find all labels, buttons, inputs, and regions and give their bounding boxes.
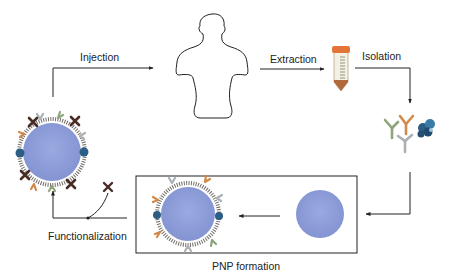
functionalized-nanoparticle-icon — [16, 112, 89, 191]
antibody-cluster-icon — [385, 116, 435, 152]
coated-nanoparticle-icon — [153, 176, 223, 251]
sample-tube-icon — [332, 46, 350, 91]
step-label-pnp-formation: PNP formation — [212, 260, 280, 272]
isolation-arrow — [355, 68, 410, 103]
step-label-functionalization: Functionalization — [48, 230, 127, 242]
step-label-extraction: Extraction — [270, 53, 317, 65]
step-label-isolation: Isolation — [362, 50, 401, 62]
to-pnp-arrow — [366, 172, 410, 214]
injection-arrow — [53, 68, 153, 97]
step-label-injection: Injection — [80, 51, 119, 63]
functionalization-arrow — [53, 191, 127, 220]
ligand-icon — [104, 183, 112, 191]
nanoparticle-icon — [296, 190, 344, 238]
human-silhouette-icon — [176, 14, 248, 118]
